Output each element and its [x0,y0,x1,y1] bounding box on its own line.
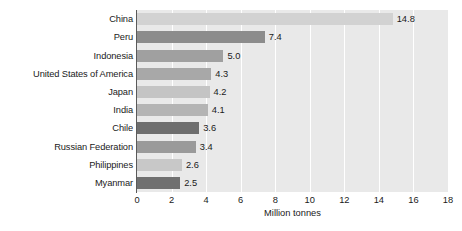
x-tick-label: 4 [204,195,209,205]
bar-value-label: 3.4 [200,142,213,152]
bar [137,104,208,116]
category-label: Russian Federation [0,142,133,152]
plot-area: 14.87.45.04.34.24.13.63.42.62.5 [137,10,448,192]
gridline [448,10,449,192]
category-label: India [0,105,133,115]
bar [137,31,265,43]
gridline [379,10,380,192]
x-tick-label: 14 [374,195,384,205]
x-tick-label: 10 [305,195,315,205]
bar [137,141,196,153]
x-tick-label: 8 [273,195,278,205]
x-tick-label: 16 [408,195,418,205]
gridline [344,10,345,192]
bar [137,68,211,80]
bar [137,159,182,171]
bar-value-label: 4.2 [214,87,227,97]
bar [137,177,180,189]
category-label: Chile [0,123,133,133]
category-label: Myanmar [0,178,133,188]
category-label: Philippines [0,160,133,170]
bar-value-label: 14.8 [397,14,415,24]
category-axis: ChinaPeruIndonesiaUnited States of Ameri… [0,10,133,192]
bar-value-label: 4.3 [215,69,228,79]
bar-value-label: 5.0 [227,51,240,61]
x-tick-label: 6 [238,195,243,205]
y-axis-line [136,10,137,193]
x-tick-label: 0 [134,195,139,205]
x-tick-label: 2 [169,195,174,205]
x-axis-title: Million tonnes [137,208,448,219]
bar-chart: ChinaPeruIndonesiaUnited States of Ameri… [0,0,462,231]
gridline [310,10,311,192]
category-label: Indonesia [0,51,133,61]
bar-value-label: 4.1 [212,105,225,115]
gridline [413,10,414,192]
category-label: China [0,14,133,24]
x-axis: 024681012141618 [137,192,448,208]
bar-value-label: 2.6 [186,160,199,170]
bar [137,50,223,62]
bar-value-label: 7.4 [269,32,282,42]
category-label: Japan [0,87,133,97]
category-label: United States of America [0,69,133,79]
category-label: Peru [0,32,133,42]
bar-value-label: 3.6 [203,123,216,133]
bar [137,13,393,25]
bar [137,86,210,98]
x-tick-label: 18 [443,195,453,205]
bar [137,122,199,134]
x-tick-label: 12 [339,195,349,205]
bar-value-label: 2.5 [184,178,197,188]
